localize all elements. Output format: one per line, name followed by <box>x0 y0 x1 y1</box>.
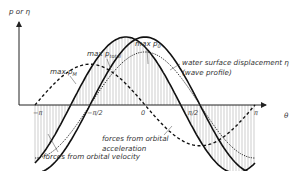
tick-pi-half: π/2 <box>188 109 198 117</box>
tick-minus-pi: −π <box>33 109 42 117</box>
x-axis-label: θ <box>284 111 289 120</box>
tick-pi: π <box>254 109 258 117</box>
label-orbital-velocity: forces from orbital velocity <box>43 152 141 161</box>
label-water-surface-2: (wave profile) <box>182 68 232 77</box>
label-water-surface-1: water surface displacement η <box>182 58 289 67</box>
label-max-ptotal: max ptotal <box>87 49 122 59</box>
tick-minus-pi-half: −π/2 <box>87 109 103 117</box>
label-orbital-acceleration-1: forces from orbital <box>102 134 169 143</box>
y-axis-label: p or η <box>8 7 30 16</box>
label-max-pM: max pM <box>50 67 78 77</box>
leader-max-pM <box>70 76 76 84</box>
wave-force-diagram: p or η θ −π −π/2 0 π/2 π max pM max ptot… <box>0 0 303 171</box>
tick-zero: 0 <box>141 109 145 117</box>
leader-max-ptotal <box>107 59 111 70</box>
label-max-p0: max p0 <box>135 39 161 49</box>
